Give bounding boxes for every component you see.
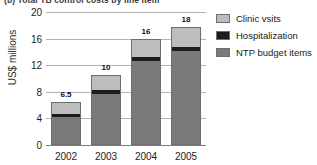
legend-swatch — [216, 14, 230, 23]
legend-label: Hospitalization — [236, 30, 298, 41]
legend-item[interactable]: Clinic vsits — [216, 13, 312, 24]
legend-label: NTP budget items — [236, 47, 312, 58]
y-axis-tick-label: 8 — [36, 86, 42, 97]
stacked-bar[interactable] — [91, 75, 121, 145]
x-axis-tick-label: 2005 — [175, 151, 197, 162]
bar-segment[interactable] — [172, 28, 200, 46]
bar-slot: 102003 — [91, 12, 121, 145]
bar-slot: 182005 — [171, 12, 201, 145]
bar-slot: 162004 — [131, 12, 161, 145]
legend-label: Clinic vsits — [236, 13, 281, 24]
bar-segment[interactable] — [132, 61, 160, 144]
legend-swatch — [216, 31, 230, 40]
stacked-bar[interactable] — [51, 102, 81, 145]
y-axis-tick-label: 12 — [31, 60, 42, 71]
y-axis-tick-label: 20 — [31, 7, 42, 18]
bar-segment[interactable] — [52, 117, 80, 144]
bar-segment[interactable] — [92, 94, 120, 144]
axis-baseline — [46, 145, 206, 146]
stacked-bar[interactable] — [131, 39, 161, 145]
bar-segment[interactable] — [132, 40, 160, 56]
legend-swatch — [216, 48, 230, 57]
bar-segment[interactable] — [172, 51, 200, 144]
bar-segment[interactable] — [92, 76, 120, 90]
bar-segment[interactable] — [52, 103, 80, 114]
y-axis-tick-label: 4 — [36, 113, 42, 124]
y-axis-tick-label: 16 — [31, 33, 42, 44]
y-axis-tick-label: 0 — [36, 140, 42, 151]
stacked-bar[interactable] — [171, 27, 201, 145]
chart-legend: Clinic vsitsHospitalizationNTP budget it… — [216, 13, 312, 58]
bar-slot: 6.52002 — [51, 12, 81, 145]
legend-item[interactable]: Hospitalization — [216, 30, 312, 41]
y-axis-title: US$ millions — [7, 15, 18, 101]
x-axis-tick-label: 2002 — [55, 151, 77, 162]
legend-item[interactable]: NTP budget items — [216, 47, 312, 58]
bar-total-label: 10 — [102, 63, 111, 72]
figure-panel: (b) Total TB control costs by line item … — [0, 0, 317, 165]
plot-area: 048121620 6.52002102003162004182005 — [46, 12, 206, 145]
bar-total-label: 16 — [142, 27, 151, 36]
bar-total-label: 6.5 — [60, 90, 71, 99]
figure-caption: (b) Total TB control costs by line item — [4, 0, 159, 5]
x-axis-tick-label: 2004 — [135, 151, 157, 162]
bar-total-label: 18 — [182, 15, 191, 24]
x-axis-tick-label: 2003 — [95, 151, 117, 162]
